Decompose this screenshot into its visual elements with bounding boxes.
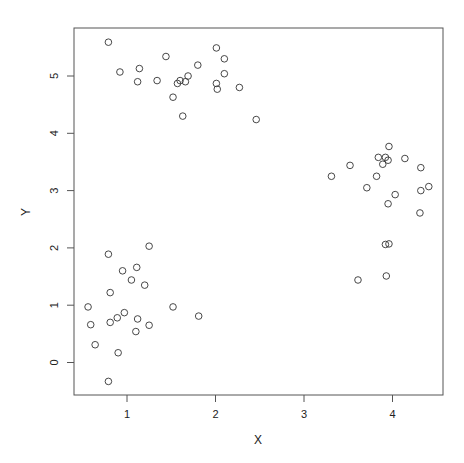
data-point	[221, 70, 228, 77]
data-point	[355, 277, 362, 284]
data-point	[128, 277, 135, 284]
scatter-chart: 1234 012345 X Y	[0, 0, 464, 463]
data-point	[146, 243, 153, 250]
data-point	[141, 282, 148, 289]
data-point	[425, 183, 432, 190]
data-point	[179, 113, 186, 120]
data-point	[402, 155, 409, 162]
data-point	[386, 143, 393, 150]
data-point	[134, 78, 141, 85]
data-point	[133, 328, 140, 335]
data-point	[221, 56, 228, 63]
data-point	[170, 94, 177, 101]
x-tick-label: 1	[124, 408, 130, 420]
data-point	[105, 39, 112, 46]
x-tick-label: 2	[212, 408, 218, 420]
data-point	[195, 313, 202, 320]
x-tick-label: 4	[389, 408, 395, 420]
data-point	[133, 264, 140, 271]
data-point	[392, 191, 399, 198]
data-point	[114, 315, 121, 322]
data-point	[328, 173, 335, 180]
data-point	[154, 77, 161, 84]
y-tick-label: 3	[48, 188, 60, 194]
x-axis: 1234	[124, 395, 396, 420]
data-point	[375, 154, 382, 161]
plot-frame	[74, 28, 443, 395]
data-point	[105, 251, 112, 258]
data-point	[347, 162, 354, 169]
y-tick-label: 2	[48, 245, 60, 251]
data-point	[385, 200, 392, 207]
data-point	[92, 341, 99, 348]
x-axis-label: X	[254, 433, 262, 447]
data-point	[146, 322, 153, 329]
data-point	[417, 210, 424, 217]
data-point	[170, 304, 177, 311]
x-tick-label: 3	[301, 408, 307, 420]
y-tick-label: 0	[48, 359, 60, 365]
data-point	[107, 319, 114, 326]
data-point	[253, 116, 260, 123]
data-point	[236, 84, 243, 91]
data-point	[105, 378, 112, 385]
data-point	[383, 273, 390, 280]
data-points	[85, 39, 432, 385]
data-point	[117, 69, 124, 76]
data-point	[85, 304, 92, 311]
data-point	[121, 309, 128, 316]
data-point	[185, 73, 192, 80]
data-point	[115, 349, 122, 356]
data-point	[418, 187, 425, 194]
y-tick-label: 1	[48, 302, 60, 308]
data-point	[107, 289, 114, 296]
data-point	[373, 173, 380, 180]
y-tick-label: 5	[48, 73, 60, 79]
data-point	[134, 316, 141, 323]
y-axis-label: Y	[19, 208, 33, 216]
data-point	[136, 65, 143, 72]
data-point	[195, 62, 202, 69]
y-tick-label: 4	[48, 130, 60, 136]
data-point	[364, 184, 371, 191]
data-point	[87, 321, 94, 328]
data-point	[119, 268, 126, 275]
data-point	[418, 164, 425, 171]
data-point	[163, 53, 170, 60]
data-point	[213, 45, 220, 52]
y-axis: 012345	[48, 73, 74, 366]
data-point	[379, 161, 386, 168]
